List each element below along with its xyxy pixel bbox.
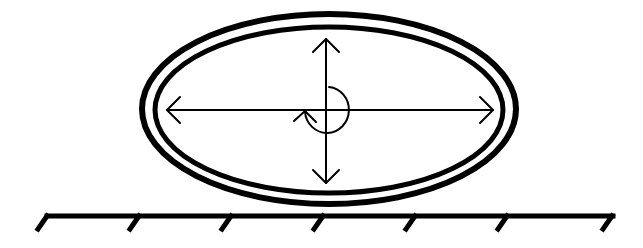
ellipse-diagram xyxy=(0,0,643,248)
ground xyxy=(38,216,613,229)
horizontal-axis xyxy=(167,97,493,123)
ground-hatch xyxy=(38,216,47,229)
